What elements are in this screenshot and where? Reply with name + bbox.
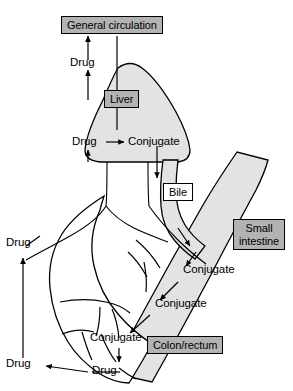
label-liver[interactable]: Liver bbox=[104, 90, 139, 108]
label-general-circulation[interactable]: General circulation bbox=[61, 16, 163, 34]
label-drug-lower-gut: Drug bbox=[6, 357, 31, 370]
label-bile[interactable]: Bile bbox=[163, 183, 193, 201]
label-conjugate-colon: Conjugate bbox=[90, 331, 142, 344]
anatomy-illustration bbox=[0, 0, 293, 391]
enterohepatic-circulation-diagram: General circulation Liver Bile Small int… bbox=[0, 0, 293, 391]
label-drug-upper-gut: Drug bbox=[6, 236, 31, 249]
label-colon-rectum[interactable]: Colon/rectum bbox=[147, 336, 223, 354]
label-conjugate-intestine-1: Conjugate bbox=[183, 263, 235, 276]
label-conjugate-intestine-2: Conjugate bbox=[155, 297, 207, 310]
stomach-gut-outline bbox=[50, 196, 153, 383]
label-drug-colon: Drug bbox=[92, 364, 117, 377]
label-drug-to-circulation: Drug bbox=[70, 56, 95, 69]
label-drug-in-liver: Drug bbox=[72, 135, 97, 148]
label-conjugate-in-liver: Conjugate bbox=[128, 135, 180, 148]
label-small-intestine[interactable]: Small intestine bbox=[233, 219, 285, 250]
